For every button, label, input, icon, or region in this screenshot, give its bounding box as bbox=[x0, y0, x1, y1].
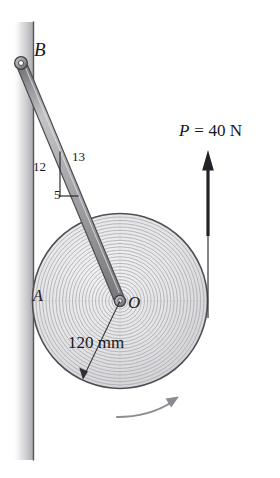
mechanics-figure: B A O 12 13 5 120 mm P = 40 N bbox=[0, 0, 280, 478]
up-arrow-icon bbox=[202, 150, 214, 171]
figure-canvas bbox=[0, 0, 280, 478]
force-equals: = bbox=[194, 121, 204, 140]
label-slope-vertical: 12 bbox=[33, 160, 46, 173]
rotation-arc bbox=[117, 402, 172, 417]
label-point-A: A bbox=[33, 288, 43, 304]
force-symbol: P bbox=[179, 121, 189, 140]
label-radius-dimension: 120 mm bbox=[68, 334, 124, 351]
label-force-P: P = 40 N bbox=[179, 122, 242, 139]
label-point-O: O bbox=[128, 294, 140, 311]
pin-joint-B bbox=[15, 57, 28, 70]
label-slope-horizontal: 5 bbox=[54, 188, 61, 201]
label-point-B: B bbox=[34, 40, 46, 59]
label-slope-hypotenuse: 13 bbox=[72, 150, 85, 163]
pin-hole-B bbox=[19, 61, 24, 66]
force-value: 40 N bbox=[208, 121, 242, 140]
rotation-indicator bbox=[117, 397, 179, 418]
